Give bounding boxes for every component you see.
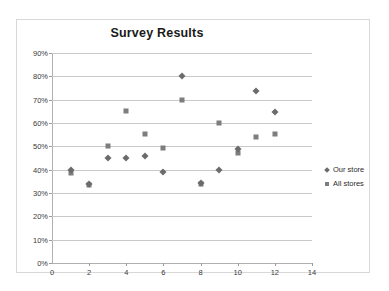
y-axis-tick-mark <box>49 193 52 194</box>
data-point-our-store <box>216 166 223 173</box>
y-axis-tick-mark <box>49 146 52 147</box>
x-axis-tick-mark <box>312 263 313 266</box>
legend-label-all-stores: All stores <box>333 179 364 188</box>
y-axis-tick-mark <box>49 240 52 241</box>
gridline <box>52 263 312 264</box>
data-point-our-store <box>123 154 130 161</box>
x-axis-tick-label: 2 <box>87 268 91 277</box>
data-point-all-stores <box>161 145 166 150</box>
x-axis-tick-label: 4 <box>124 268 128 277</box>
y-axis-tick-label: 90% <box>33 49 48 58</box>
y-axis-tick-mark <box>49 123 52 124</box>
data-point-all-stores <box>272 132 277 137</box>
y-axis-tick-label: 0% <box>37 259 48 268</box>
x-axis-tick-label: 8 <box>198 268 202 277</box>
y-axis-tick-label: 50% <box>33 142 48 151</box>
data-point-all-stores <box>254 135 259 140</box>
y-axis-tick-label: 80% <box>33 72 48 81</box>
y-axis-tick-mark <box>49 53 52 54</box>
gridline <box>52 193 312 194</box>
y-axis-tick-mark <box>49 170 52 171</box>
x-axis-tick-mark <box>201 263 202 266</box>
diamond-marker-icon <box>322 165 331 174</box>
y-axis-tick-mark <box>49 263 52 264</box>
y-axis-tick-label: 70% <box>33 95 48 104</box>
y-axis-tick-mark <box>49 216 52 217</box>
chart-legend: Our store All stores <box>322 162 364 190</box>
gridline <box>52 240 312 241</box>
data-point-our-store <box>141 152 148 159</box>
square-marker-icon <box>322 179 331 188</box>
y-axis-tick-label: 10% <box>33 235 48 244</box>
legend-label-our-store: Our store <box>333 165 364 174</box>
x-axis-tick-mark <box>238 263 239 266</box>
legend-item-our-store: Our store <box>322 162 364 176</box>
data-point-all-stores <box>124 109 129 114</box>
x-axis-tick-mark <box>126 263 127 266</box>
x-axis-tick-label: 12 <box>271 268 279 277</box>
y-axis-tick-label: 20% <box>33 212 48 221</box>
gridline <box>52 146 312 147</box>
y-axis-tick-mark <box>49 100 52 101</box>
chart-container: Survey Results 0%10%20%30%40%50%60%70%80… <box>16 19 370 273</box>
data-point-our-store <box>178 73 185 80</box>
data-point-our-store <box>271 109 278 116</box>
y-axis-line <box>52 53 53 263</box>
x-axis-tick-label: 6 <box>161 268 165 277</box>
x-axis-tick-mark <box>275 263 276 266</box>
x-axis-tick-mark <box>89 263 90 266</box>
x-axis-tick-mark <box>163 263 164 266</box>
gridline <box>52 216 312 217</box>
data-point-all-stores <box>217 120 222 125</box>
plot-area: 0%10%20%30%40%50%60%70%80%90% 0246810121… <box>52 53 312 263</box>
y-axis-tick-label: 40% <box>33 165 48 174</box>
data-point-all-stores <box>142 132 147 137</box>
gridline <box>52 170 312 171</box>
chart-title: Survey Results <box>17 26 297 40</box>
data-point-our-store <box>253 88 260 95</box>
x-axis-tick-label: 0 <box>50 268 54 277</box>
data-point-all-stores <box>180 97 185 102</box>
y-axis-tick-label: 60% <box>33 119 48 128</box>
data-point-our-store <box>104 154 111 161</box>
data-point-all-stores <box>105 143 110 148</box>
y-axis-tick-mark <box>49 76 52 77</box>
gridline <box>52 123 312 124</box>
gridline <box>52 53 312 54</box>
legend-item-all-stores: All stores <box>322 176 364 190</box>
x-axis-tick-label: 10 <box>234 268 242 277</box>
y-axis-tick-label: 30% <box>33 189 48 198</box>
x-axis-tick-label: 14 <box>308 268 316 277</box>
